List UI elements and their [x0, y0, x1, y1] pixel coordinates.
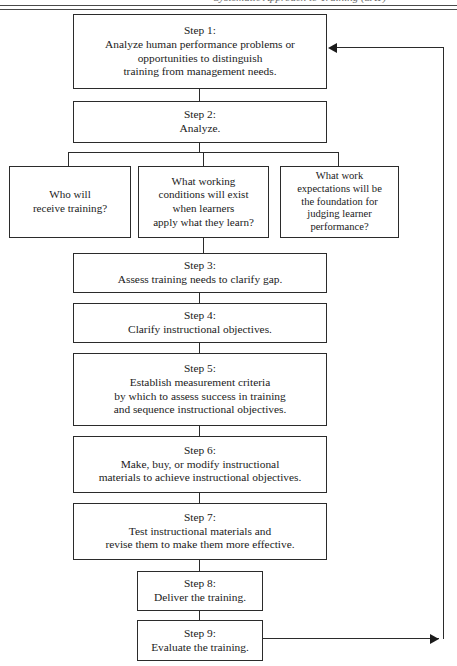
node-q2-line3: when learners [173, 202, 235, 216]
node-q1-line2: receive training? [33, 202, 107, 216]
node-step6-line2: Make, buy, or modify instructional [121, 458, 280, 472]
node-question-work-expectations[interactable]: What work expectations will be the found… [280, 166, 399, 238]
node-step3[interactable]: Step 3: Assess training needs to clarify… [73, 253, 327, 293]
node-step9-line2: Evaluate the training. [151, 641, 249, 655]
node-step9[interactable]: Step 9: Evaluate the training. [137, 620, 263, 661]
node-step4[interactable]: Step 4: Clarify instructional objectives… [73, 303, 327, 343]
node-q2-line4: apply what they learn? [153, 216, 254, 230]
connector-branch-to-q2 [203, 152, 204, 166]
node-step6-line3: materials to achieve instructional objec… [99, 471, 302, 485]
node-question-working-conditions[interactable]: What working conditions will exist when … [138, 166, 269, 238]
node-step5[interactable]: Step 5: Establish measurement criteria b… [73, 353, 327, 426]
connector-step6-to-step7 [199, 493, 200, 503]
flowchart-page: Systematic Approach to Training (SAT) St… [0, 0, 457, 666]
node-step8[interactable]: Step 8: Deliver the training. [137, 571, 263, 611]
connector-step3-to-step4 [199, 293, 200, 303]
node-step2-line2: Analyze. [180, 122, 221, 136]
feedback-loop-arrowhead-left-icon [328, 43, 337, 53]
node-step7-line3: revise them to make them more effective. [105, 538, 294, 552]
node-step4-line1: Step 4: [184, 309, 216, 323]
node-step5-line1: Step 5: [184, 362, 216, 376]
node-step7[interactable]: Step 7: Test instructional materials and… [73, 503, 327, 560]
node-step1-line1: Step 1: [184, 24, 216, 38]
node-step5-line4: and sequence instructional objectives. [114, 403, 287, 417]
node-q3-line1: What work [316, 170, 363, 183]
node-step4-line2: Clarify instructional objectives. [128, 323, 272, 337]
node-step7-line1: Step 7: [184, 511, 216, 525]
node-step3-line2: Assess training needs to clarify gap. [118, 273, 283, 287]
feedback-loop-vertical-segment [443, 47, 444, 639]
node-step5-line3: by which to assess success in training [114, 390, 285, 404]
node-step1[interactable]: Step 1: Analyze human performance proble… [73, 14, 327, 89]
header-rule-bottom [0, 9, 457, 10]
connector-questions-to-step3 [203, 238, 204, 253]
connector-step5-to-step6 [199, 426, 200, 436]
node-step1-line3: opportunities to distinguish [138, 52, 263, 66]
connector-step1-to-step2 [199, 89, 200, 101]
node-step6-line1: Step 6: [184, 444, 216, 458]
node-step6[interactable]: Step 6: Make, buy, or modify instruction… [73, 436, 327, 493]
node-step2[interactable]: Step 2: Analyze. [73, 101, 327, 143]
feedback-loop-arrowhead-right-icon [430, 634, 439, 644]
node-q3-line3: the foundation for [301, 196, 378, 209]
connector-step7-to-step8 [199, 560, 200, 571]
connector-branch-to-q3 [338, 152, 339, 166]
node-q3-line2: expectations will be [297, 183, 382, 196]
feedback-loop-bottom-segment [263, 638, 439, 639]
node-step1-line4: training from management needs. [123, 65, 276, 79]
node-step9-line1: Step 9: [184, 627, 216, 641]
connector-step4-to-step5 [199, 343, 200, 353]
connector-branch-to-q1 [68, 152, 69, 166]
node-question-who-will-receive-training[interactable]: Who will receive training? [9, 166, 131, 238]
node-step7-line2: Test instructional materials and [129, 525, 272, 539]
node-q3-line5: performance? [310, 221, 368, 234]
node-step8-line2: Deliver the training. [154, 591, 246, 605]
node-step1-line2: Analyze human performance problems or [105, 38, 295, 52]
running-head: Systematic Approach to Training (SAT) [150, 0, 450, 3]
node-q2-line2: conditions will exist [159, 188, 249, 202]
node-step5-line2: Establish measurement criteria [130, 376, 270, 390]
connector-step8-to-step9 [199, 611, 200, 620]
node-step3-line1: Step 3: [184, 259, 216, 273]
feedback-loop-top-segment [337, 47, 444, 48]
node-step2-line1: Step 2: [184, 108, 216, 122]
node-q3-line4: judging learner [307, 208, 371, 221]
node-q2-line1: What working [172, 175, 236, 189]
header-rule-top [0, 5, 457, 6]
node-step8-line1: Step 8: [184, 577, 216, 591]
node-q1-line1: Who will [49, 188, 91, 202]
